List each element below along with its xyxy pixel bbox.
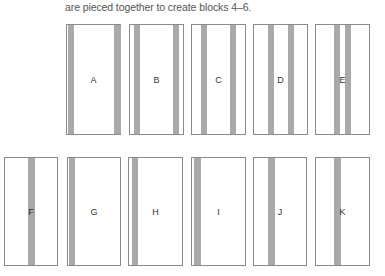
block-g: G (67, 157, 121, 266)
block-h: H (128, 157, 183, 266)
block-e: E (315, 24, 370, 135)
block-j: J (253, 157, 307, 266)
block-label: G (68, 207, 120, 217)
block-label: C (192, 75, 245, 85)
caption-text: are pieced together to create blocks 4–6… (65, 1, 251, 13)
block-i: I (191, 157, 246, 266)
block-label: I (192, 207, 245, 217)
block-label: F (5, 207, 57, 217)
block-label: E (316, 75, 369, 85)
block-d: D (253, 24, 308, 135)
block-k: K (315, 157, 370, 266)
block-label: D (254, 75, 307, 85)
block-label: K (316, 207, 369, 217)
block-c: C (191, 24, 246, 135)
block-label: J (254, 207, 306, 217)
block-label: H (129, 207, 182, 217)
block-f: F (4, 157, 58, 266)
block-b: B (129, 24, 184, 135)
block-label: B (130, 75, 183, 85)
block-label: A (67, 75, 120, 85)
block-a: A (66, 24, 121, 135)
